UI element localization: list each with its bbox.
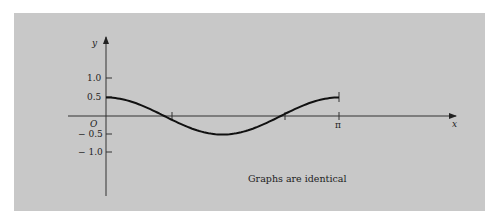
chart: y x O π 1.0 0.5 − 0.5 − 1.0 [0,0,499,224]
tick-1: 1.0 [87,73,102,83]
caption: Graphs are identical [248,173,346,184]
pi-label: π [335,120,341,130]
tick-m05: − 0.5 [78,129,103,139]
tick-05: 0.5 [87,92,102,102]
y-ticks [106,78,112,152]
origin-label: O [90,119,98,129]
tick-m1: − 1.0 [78,147,103,157]
y-axis-label: y [91,38,98,48]
x-axis-label: x [452,119,457,129]
